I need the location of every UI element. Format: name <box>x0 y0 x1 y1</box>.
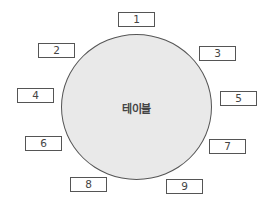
seat-4: 4 <box>17 88 54 103</box>
seat-label: 1 <box>133 14 140 25</box>
seat-3: 3 <box>199 46 236 61</box>
seat-label: 9 <box>181 181 188 192</box>
seat-label: 6 <box>40 138 47 149</box>
seat-label: 5 <box>235 93 242 104</box>
seat-label: 7 <box>224 141 231 152</box>
seat-8: 8 <box>70 177 107 192</box>
seat-6: 6 <box>25 136 62 151</box>
seat-5: 5 <box>220 91 257 106</box>
seat-label: 2 <box>53 45 60 56</box>
seat-label: 4 <box>32 90 39 101</box>
seat-7: 7 <box>209 139 246 154</box>
round-table: 테이블 <box>61 34 212 180</box>
seat-1: 1 <box>118 12 155 27</box>
seat-2: 2 <box>38 43 75 58</box>
table-label: 테이블 <box>122 100 151 116</box>
seat-label: 3 <box>214 48 221 59</box>
seat-label: 8 <box>85 179 92 190</box>
seat-9: 9 <box>166 179 203 194</box>
